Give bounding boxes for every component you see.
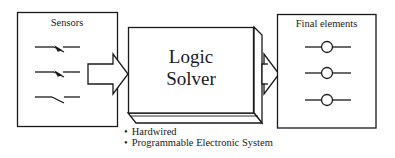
solver-types-list: Hardwired Programmable Electronic System	[124, 126, 273, 148]
switch-normally-open-icon	[35, 47, 80, 52]
logic-solver-label: Logic Solver	[128, 46, 254, 90]
arrow-solver-to-final-icon	[262, 54, 279, 94]
logic-solver-line1: Logic	[128, 46, 254, 68]
logic-solver-line2: Solver	[128, 68, 254, 90]
solver-type-item: Programmable Electronic System	[124, 137, 273, 148]
arrow-sensors-to-solver-icon	[88, 54, 128, 94]
switch-open-icon	[35, 97, 80, 103]
final-elements-title: Final elements	[277, 18, 376, 29]
switch-normally-open-icon	[35, 72, 80, 77]
solver-type-item: Hardwired	[124, 126, 273, 137]
sensors-title: Sensors	[17, 17, 117, 28]
